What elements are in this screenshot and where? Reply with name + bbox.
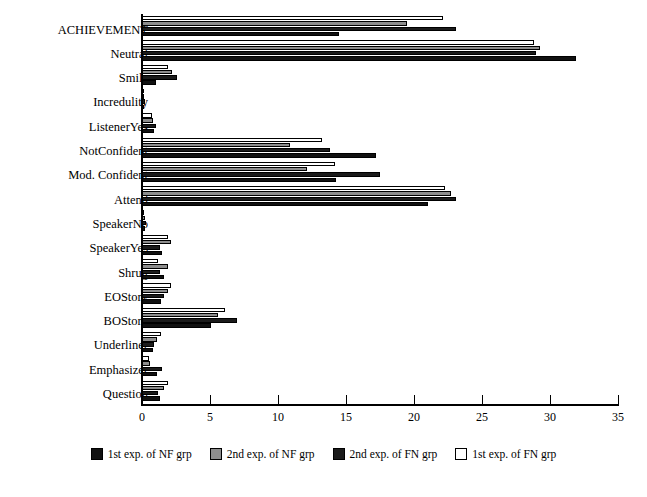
chart-legend: 1st exp. of NF grp2nd exp. of NF grp2nd … <box>0 448 647 460</box>
chart-category-row: Emphasizer <box>0 356 647 380</box>
chart-bar <box>142 342 154 346</box>
chart-bar <box>142 381 168 385</box>
chart-category-row: Shrug <box>0 259 647 283</box>
chart-bar <box>142 178 336 182</box>
y-axis-category-label: Underliner <box>94 339 148 352</box>
chart-bar <box>142 245 160 249</box>
chart-bar <box>142 337 157 341</box>
x-axis-tick-label: 15 <box>326 410 366 424</box>
x-axis-tick-label: 10 <box>258 410 298 424</box>
chart-bar <box>142 318 237 322</box>
chart-category-row: Neutral <box>0 40 647 64</box>
legend-label: 2nd exp. of NF grp <box>227 448 315 460</box>
legend-label: 1st exp. of FN grp <box>472 448 556 460</box>
chart-bar <box>142 283 171 287</box>
chart-bar <box>142 124 156 128</box>
chart-bar <box>142 216 145 220</box>
y-axis-category-label: Incredulity <box>93 96 148 109</box>
y-axis-category-label: NotConfident <box>79 145 148 158</box>
chart-bar <box>142 299 161 303</box>
chart-bar <box>142 32 339 36</box>
chart-bar <box>142 172 380 176</box>
chart-bar <box>142 51 536 55</box>
chart-bar <box>142 75 177 79</box>
chart-bar <box>142 40 534 44</box>
chart-bar <box>142 113 152 117</box>
chart-bar <box>142 270 160 274</box>
chart-bar <box>142 105 144 109</box>
legend-label: 1st exp. of NF grp <box>108 448 192 460</box>
chart-bar <box>142 391 158 395</box>
chart-category-row: EOStory <box>0 283 647 307</box>
chart-bar <box>142 240 171 244</box>
chart-bar <box>142 313 218 317</box>
chart-bar <box>142 386 164 390</box>
x-axis-tick-label: 5 <box>190 410 230 424</box>
chart-bar <box>142 80 156 84</box>
chart-category-row: SpeakerYes <box>0 235 647 259</box>
chart-bar <box>142 94 144 98</box>
chart-category-row: NotConfident <box>0 138 647 162</box>
chart-bar <box>142 138 322 142</box>
chart-bar <box>142 361 150 365</box>
chart-bar <box>142 197 456 201</box>
legend-label: 2nd exp. of FN grp <box>350 448 438 460</box>
chart-bar <box>142 202 428 206</box>
y-axis-category-label: ACHIEVEMENT <box>58 24 148 37</box>
chart-bar <box>142 118 153 122</box>
chart-category-row: ListenerYes <box>0 113 647 137</box>
chart-bar <box>142 27 456 31</box>
y-axis-category-label: Emphasizer <box>89 364 148 377</box>
chart-bar <box>142 21 407 25</box>
chart-category-row: Smile <box>0 65 647 89</box>
chart-category-row: Underliner <box>0 332 647 356</box>
chart-bar <box>142 186 445 190</box>
chart-bar <box>142 235 168 239</box>
legend-item: 1st exp. of NF grp <box>91 448 192 460</box>
x-axis-tick-label: 25 <box>462 410 502 424</box>
chart-bar <box>142 396 160 400</box>
chart-bar <box>142 259 158 263</box>
chart-bar <box>142 308 225 312</box>
chart-category-row: BOStory <box>0 308 647 332</box>
legend-swatch-icon <box>91 448 103 460</box>
chart-category-row: Mod. Confident <box>0 162 647 186</box>
chart-bar <box>142 210 144 214</box>
chart-category-row: Incredulity <box>0 89 647 113</box>
chart-bar <box>142 162 335 166</box>
chart-bar <box>142 323 211 327</box>
chart-bar <box>142 46 540 50</box>
chart-bar <box>142 356 149 360</box>
chart-category-row: SpeakerNo <box>0 210 647 234</box>
legend-item: 2nd exp. of FN grp <box>333 448 438 460</box>
chart-bar <box>142 294 164 298</box>
chart-bar <box>142 275 164 279</box>
legend-swatch-icon <box>210 448 222 460</box>
chart-category-row: ACHIEVEMENT <box>0 16 647 40</box>
chart-bar <box>142 226 145 230</box>
chart-bar <box>142 16 443 20</box>
y-axis-category-label: SpeakerNo <box>92 218 148 231</box>
y-axis-category-label: SpeakerYes <box>90 242 148 255</box>
chart-bar <box>142 167 307 171</box>
chart-category-row: Attend <box>0 186 647 210</box>
legend-item: 2nd exp. of NF grp <box>210 448 315 460</box>
chart-bar <box>142 221 146 225</box>
legend-item: 1st exp. of FN grp <box>455 448 556 460</box>
chart-bar <box>142 367 162 371</box>
x-axis-tick-label: 30 <box>530 410 570 424</box>
chart-bar <box>142 148 330 152</box>
chart-bar <box>142 191 451 195</box>
chart-bar <box>142 289 168 293</box>
chart-bar <box>142 264 168 268</box>
chart-bar <box>142 129 154 133</box>
x-axis-tick-label: 35 <box>598 410 638 424</box>
y-axis-category-label: Mod. Confident <box>68 169 148 182</box>
chart-bar <box>142 348 153 352</box>
chart-bar <box>142 332 161 336</box>
x-axis-tick-label: 0 <box>122 410 162 424</box>
x-axis-tick-label: 20 <box>394 410 434 424</box>
chart-bar <box>142 70 172 74</box>
y-axis-category-label: ListenerYes <box>89 121 148 134</box>
chart-bar <box>142 56 576 60</box>
